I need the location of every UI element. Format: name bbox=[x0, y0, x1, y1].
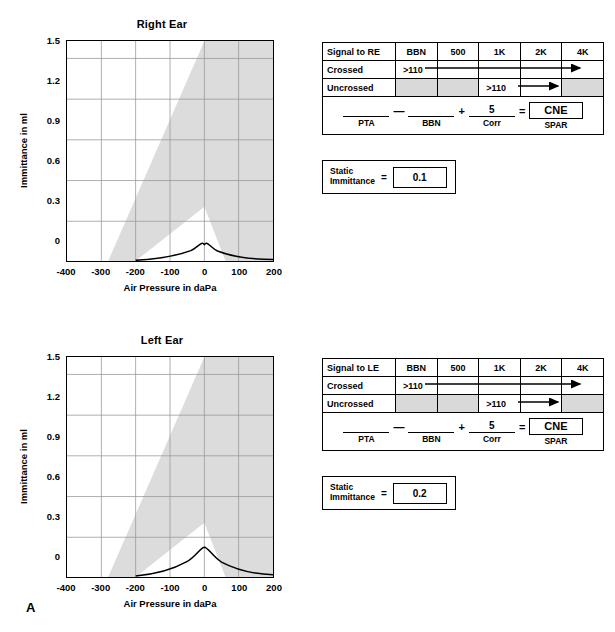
right-ear-acoustic-reflex-table: Signal to RE BBN 500 1K 2K 4K Crossed >1… bbox=[322, 42, 604, 135]
table-row-uncrossed: Uncrossed >110 bbox=[323, 79, 604, 97]
spar-formula-right: PTA — BBN + 5 Corr = CNE SPAR bbox=[322, 97, 604, 135]
pta-fraction[interactable]: PTA bbox=[343, 103, 389, 128]
row-label-crossed[interactable]: Crossed bbox=[323, 377, 396, 395]
tympanogram-svg-right bbox=[67, 41, 273, 261]
corr-fraction[interactable]: 5 Corr bbox=[469, 103, 515, 128]
spar-result[interactable]: CNE SPAR bbox=[529, 418, 582, 446]
header-4k: 4K bbox=[562, 43, 604, 61]
crossed-4k-value[interactable] bbox=[562, 377, 604, 395]
equals-operator: = bbox=[519, 105, 525, 127]
left-ear-panel: Left Ear Immittance in ml 1.5 1.2 0.9 0.… bbox=[0, 316, 615, 632]
row-label-uncrossed[interactable]: Uncrossed bbox=[323, 395, 396, 413]
chart-title: Left Ear bbox=[12, 334, 312, 346]
static-immittance-label: Static Immittance bbox=[330, 483, 375, 503]
static-immittance-value[interactable]: 0.2 bbox=[393, 483, 447, 504]
static-immittance-value[interactable]: 0.1 bbox=[393, 167, 447, 188]
bbn-label: BBN bbox=[422, 433, 440, 444]
y-tick-0.6: 0.6 bbox=[26, 155, 60, 166]
minus-operator: — bbox=[393, 421, 404, 443]
bbn-value[interactable] bbox=[408, 103, 454, 117]
corr-label: Corr bbox=[483, 433, 501, 444]
uncrossed-1k-value[interactable]: >110 bbox=[479, 79, 521, 97]
spar-result-label: SPAR bbox=[544, 435, 567, 446]
y-tick-0.3: 0.3 bbox=[26, 511, 60, 522]
x-tick-200: 200 bbox=[254, 266, 294, 277]
spar-formula-left: PTA — BBN + 5 Corr = CNE SPAR bbox=[322, 413, 604, 451]
uncrossed-bbn-value[interactable] bbox=[396, 395, 438, 413]
static-immittance-equals: = bbox=[381, 488, 387, 499]
corr-value[interactable]: 5 bbox=[469, 419, 515, 433]
pta-label: PTA bbox=[358, 117, 374, 128]
y-tick-0: 0 bbox=[26, 551, 60, 562]
row-label-crossed[interactable]: Crossed bbox=[323, 61, 396, 79]
static-immittance-label: Static Immittance bbox=[330, 167, 375, 187]
y-tick-0.6: 0.6 bbox=[26, 471, 60, 482]
uncrossed-2k-value[interactable] bbox=[520, 79, 562, 97]
table-row-crossed: Crossed >110 bbox=[323, 61, 604, 79]
left-ear-chart: Left Ear Immittance in ml 1.5 1.2 0.9 0.… bbox=[12, 334, 312, 619]
y-tick-0.9: 0.9 bbox=[26, 115, 60, 126]
uncrossed-4k-value[interactable] bbox=[562, 79, 604, 97]
bbn-fraction[interactable]: BBN bbox=[408, 103, 454, 128]
crossed-bbn-value[interactable]: >110 bbox=[396, 377, 438, 395]
static-immittance-box-right: Static Immittance = 0.1 bbox=[322, 160, 456, 194]
table-row-crossed: Crossed >110 bbox=[323, 377, 604, 395]
plus-operator: + bbox=[458, 421, 464, 443]
pta-value[interactable] bbox=[343, 419, 389, 433]
uncrossed-bbn-value[interactable] bbox=[396, 79, 438, 97]
corr-fraction[interactable]: 5 Corr bbox=[469, 419, 515, 444]
header-signal-to: Signal to LE bbox=[323, 359, 396, 377]
y-tick-1.2: 1.2 bbox=[26, 391, 60, 402]
bbn-fraction[interactable]: BBN bbox=[408, 419, 454, 444]
spar-result-value[interactable]: CNE bbox=[529, 102, 582, 119]
tympanogram-svg-left bbox=[67, 357, 273, 577]
uncrossed-500-value[interactable] bbox=[437, 395, 479, 413]
y-tick-1.5: 1.5 bbox=[26, 35, 60, 46]
header-500: 500 bbox=[437, 43, 479, 61]
header-1k: 1K bbox=[479, 43, 521, 61]
crossed-500-value[interactable] bbox=[437, 61, 479, 79]
chart-title: Right Ear bbox=[12, 18, 312, 30]
plot-area-left bbox=[66, 356, 274, 578]
uncrossed-500-value[interactable] bbox=[437, 79, 479, 97]
static-immittance-box-left: Static Immittance = 0.2 bbox=[322, 476, 456, 510]
crossed-4k-value[interactable] bbox=[562, 61, 604, 79]
right-ear-panel: Right Ear Immittance in ml 1.5 1.2 0.9 0… bbox=[0, 0, 615, 316]
plot-area-right bbox=[66, 40, 274, 262]
crossed-1k-value[interactable] bbox=[479, 61, 521, 79]
normal-range-band bbox=[108, 41, 273, 261]
crossed-2k-value[interactable] bbox=[520, 377, 562, 395]
uncrossed-1k-value[interactable]: >110 bbox=[479, 395, 521, 413]
bbn-value[interactable] bbox=[408, 419, 454, 433]
header-2k: 2K bbox=[520, 43, 562, 61]
crossed-bbn-value[interactable]: >110 bbox=[396, 61, 438, 79]
x-axis-title: Air Pressure in daPa bbox=[66, 598, 274, 609]
uncrossed-4k-value[interactable] bbox=[562, 395, 604, 413]
right-ear-chart: Right Ear Immittance in ml 1.5 1.2 0.9 0… bbox=[12, 18, 312, 303]
corr-label: Corr bbox=[483, 117, 501, 128]
pta-value[interactable] bbox=[343, 103, 389, 117]
crossed-1k-value[interactable] bbox=[479, 377, 521, 395]
uncrossed-2k-value[interactable] bbox=[520, 395, 562, 413]
minus-operator: — bbox=[393, 105, 404, 127]
spar-result[interactable]: CNE SPAR bbox=[529, 102, 582, 130]
header-bbn: BBN bbox=[396, 43, 438, 61]
crossed-500-value[interactable] bbox=[437, 377, 479, 395]
y-tick-1.5: 1.5 bbox=[26, 351, 60, 362]
row-label-uncrossed[interactable]: Uncrossed bbox=[323, 79, 396, 97]
x-axis-title: Air Pressure in daPa bbox=[66, 282, 274, 293]
crossed-2k-value[interactable] bbox=[520, 61, 562, 79]
figure-label: A bbox=[26, 600, 35, 615]
pta-fraction[interactable]: PTA bbox=[343, 419, 389, 444]
corr-value[interactable]: 5 bbox=[469, 103, 515, 117]
header-1k: 1K bbox=[479, 359, 521, 377]
table-header-row: Signal to RE BBN 500 1K 2K 4K bbox=[323, 43, 604, 61]
x-tick-200: 200 bbox=[254, 582, 294, 593]
header-bbn: BBN bbox=[396, 359, 438, 377]
plus-operator: + bbox=[458, 105, 464, 127]
pta-label: PTA bbox=[358, 433, 374, 444]
y-tick-1.2: 1.2 bbox=[26, 75, 60, 86]
table-header-row: Signal to LE BBN 500 1K 2K 4K bbox=[323, 359, 604, 377]
reflex-table: Signal to LE BBN 500 1K 2K 4K Crossed >1… bbox=[322, 358, 604, 413]
spar-result-value[interactable]: CNE bbox=[529, 418, 582, 435]
